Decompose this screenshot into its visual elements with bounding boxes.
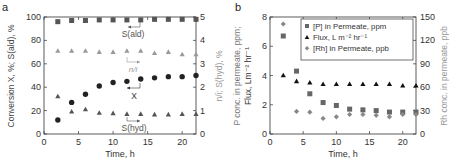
data-point: [179, 74, 184, 79]
data-point: [166, 17, 171, 22]
series-s-hyd-: [55, 94, 198, 117]
data-point: [97, 110, 102, 115]
data-point: [193, 52, 198, 57]
data-point: [374, 81, 379, 86]
data-point: [307, 110, 312, 115]
legend: [P] in Permeate, ppm Flux, L m⁻² hr⁻¹ [R…: [301, 19, 413, 60]
data-point: [294, 79, 299, 84]
y-tick-label: 4: [262, 71, 267, 81]
legend-item-rh: [Rh] in Permeate, ppb: [305, 44, 390, 53]
data-point: [124, 79, 129, 84]
data-point: [166, 49, 171, 54]
data-point: [307, 80, 312, 85]
svg-text:S(ald): S(ald): [122, 29, 145, 39]
data-point: [387, 110, 392, 115]
x-tick-label: 5: [301, 137, 306, 147]
data-point: [83, 107, 88, 112]
data-point: [124, 111, 129, 116]
x-tick-label: 0: [41, 137, 46, 147]
x-tick-label: 15: [365, 137, 375, 147]
data-point: [69, 18, 74, 23]
data-point: [55, 19, 60, 24]
data-point: [180, 52, 185, 57]
data-point: [152, 75, 157, 80]
data-point: [124, 17, 129, 22]
data-point: [374, 113, 379, 118]
y-tick-label: 40: [31, 82, 41, 92]
y-tick-label: 2: [262, 100, 267, 110]
x-tick-label: 20: [177, 137, 187, 147]
y2-tick-label: 90: [420, 59, 430, 69]
legend-item-flux: Flux, L m⁻² hr⁻¹: [305, 33, 368, 42]
y2-tick-label: 2: [200, 82, 205, 92]
data-point: [152, 17, 157, 22]
data-point: [69, 100, 74, 105]
y-tick-label: 60: [31, 59, 41, 69]
y2-tick-label: 0: [200, 129, 205, 139]
svg-text:[Rh] in Permeate, ppb: [Rh] in Permeate, ppb: [313, 44, 390, 53]
x-tick-label: 15: [143, 137, 153, 147]
y-tick-label: 6: [262, 41, 267, 51]
annotation-ni: n/i: [127, 57, 140, 74]
panel-a-x-label: Time, h: [105, 149, 135, 159]
y2-tick-label: 30: [420, 106, 430, 116]
svg-text:X: X: [131, 91, 137, 101]
data-point: [281, 21, 286, 26]
y-tick-label: 20: [31, 106, 41, 116]
annotation-sald: S(ald): [122, 22, 145, 39]
y-tick-label: 0: [262, 129, 267, 139]
legend-item-p: [P] in Permeate, ppm: [305, 22, 386, 31]
data-point: [347, 81, 352, 86]
data-point: [294, 109, 299, 114]
data-point: [166, 112, 171, 117]
y-tick-label: 0: [36, 129, 41, 139]
svg-text:n/i: n/i: [129, 65, 138, 74]
data-point: [55, 48, 60, 53]
y2-tick-label: 1: [200, 106, 205, 116]
data-point: [334, 114, 339, 119]
panel-a: a 05101520 020406080100 012345 Time, h C…: [2, 1, 224, 159]
data-point: [166, 74, 171, 79]
data-point: [281, 73, 286, 78]
y-tick-label: 80: [31, 35, 41, 45]
panel-b-y-label-2: Flux, Lm⁻² hr⁻¹: [243, 47, 253, 105]
panel-a-y-label: Conversion X, %; S(ald), %: [6, 24, 16, 127]
data-point: [110, 80, 115, 85]
panel-a-y2-label: n/i; S(hyd), %: [214, 50, 224, 101]
x-tick-label: 0: [267, 137, 272, 147]
data-point: [152, 50, 157, 55]
x-tick-label: 20: [398, 137, 408, 147]
data-point: [400, 83, 405, 88]
y2-tick-label: 150: [420, 12, 435, 22]
data-point: [83, 18, 88, 23]
panel-b-y2-label: Rh conc. in permeate, ppb: [439, 26, 449, 126]
data-point: [193, 73, 198, 78]
data-point: [83, 92, 88, 97]
x-tick-label: 5: [76, 137, 81, 147]
data-point: [55, 117, 60, 122]
data-point: [387, 114, 392, 119]
annotation-x: X: [127, 83, 140, 101]
y2-tick-label: 5: [200, 12, 205, 22]
panel-a-plot-frame: [44, 17, 196, 134]
data-point: [347, 107, 352, 112]
data-point: [110, 49, 115, 54]
y2-tick-label: 60: [420, 82, 430, 92]
panel-b-y-axis: 02468: [262, 12, 273, 139]
panel-b-label: b: [235, 1, 241, 13]
y2-tick-label: 3: [200, 59, 205, 69]
data-point: [138, 76, 143, 81]
series-flux-l-m-2-hr-1: [281, 73, 419, 88]
panel-a-label: a: [2, 1, 9, 13]
data-point: [193, 111, 198, 116]
figure: a 05101520 020406080100 012345 Time, h C…: [0, 0, 460, 163]
x-tick-label: 10: [331, 137, 341, 147]
data-point: [320, 81, 325, 86]
panel-b-y-label-1: P conc. in permeate, ppm;: [232, 26, 242, 125]
y-tick-label: 100: [26, 12, 41, 22]
data-point: [360, 107, 365, 112]
data-point: [180, 17, 185, 22]
data-point: [307, 91, 312, 96]
x-tick-label: 10: [108, 137, 118, 147]
data-point: [334, 81, 339, 86]
